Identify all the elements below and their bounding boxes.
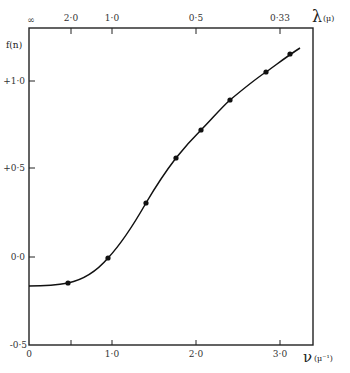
y-tick-label: 0·0: [11, 252, 26, 262]
top-tick-label: 0·33: [270, 13, 290, 23]
y-tick-label: -0·5: [10, 340, 28, 350]
top-tick-label: 2·0: [64, 13, 79, 23]
data-points: [65, 51, 292, 285]
top-axis-title-unit: (μ): [323, 14, 334, 23]
data-point: [65, 280, 70, 285]
top-tick-label: ∞: [27, 15, 35, 25]
data-point: [198, 127, 203, 132]
data-point: [173, 155, 178, 160]
y-tick-label: +0·5: [3, 163, 25, 173]
top-tick-label: 1·0: [105, 13, 120, 23]
data-point: [143, 200, 148, 205]
plot-frame: [29, 28, 313, 345]
x-axis-title-unit: (μ⁻¹): [314, 354, 333, 363]
x-tick-label: 2·0: [189, 349, 204, 359]
x-axis-title-symbol: ν: [303, 348, 312, 366]
data-point: [105, 255, 110, 260]
data-point: [287, 51, 292, 56]
data-point: [263, 69, 268, 74]
y-axis-title: f(n): [6, 40, 22, 50]
x-tick-label: 1·0: [105, 349, 120, 359]
x-tick-label: 0: [26, 349, 32, 359]
fitted-curve: [29, 48, 300, 286]
x-axis-ticks: [71, 340, 280, 345]
y-axis-ticks: [29, 81, 35, 257]
data-point: [227, 97, 232, 102]
top-tick-label: 0·5: [189, 13, 204, 23]
top-axis-title-symbol: λ: [312, 7, 322, 26]
y-tick-label: +1·0: [3, 76, 25, 86]
x-tick-label: 3·0: [273, 349, 288, 359]
chart-canvas: +1·0 +0·5 0·0 -0·5 f(n) 0 1·0 2·0 3·0 ν …: [0, 0, 350, 373]
top-axis-ticks: [71, 28, 280, 34]
